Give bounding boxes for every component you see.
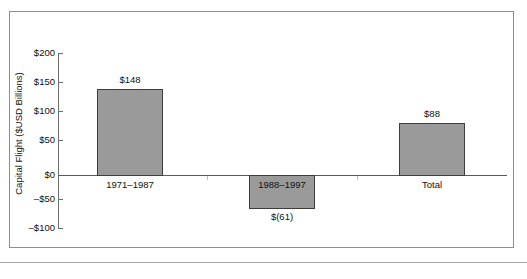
bar-category-label-total: Total	[399, 179, 465, 190]
bar-category-label-1988-1997: 1988–1997	[245, 179, 319, 190]
y-tick-label-50: $50	[0, 135, 55, 145]
y-tick-label-0: $0	[0, 170, 55, 180]
y-tick-mark-neg50	[58, 199, 63, 200]
y-tick-mark-50	[58, 140, 63, 141]
y-tick-mark-200	[58, 53, 63, 54]
y-tick-label-neg50: –$50	[0, 194, 55, 204]
y-tick-label-200: $200	[0, 48, 55, 58]
bar-chart-figure: Capital Flight ($USD Billions) $200 $150…	[0, 0, 527, 279]
x-tick-mark-2	[357, 176, 358, 180]
y-tick-label-neg100: –$100	[0, 223, 55, 233]
bar-value-label-1971-1987: $148	[97, 74, 163, 85]
bar-category-label-1971-1987: 1971–1987	[82, 179, 178, 190]
bar-value-label-total: $88	[399, 108, 465, 119]
y-tick-label-150: $150	[0, 77, 55, 87]
y-tick-mark-150	[58, 82, 63, 83]
bottom-divider-rule	[0, 262, 527, 263]
y-tick-mark-neg100	[58, 228, 63, 229]
y-tick-label-100: $100	[0, 106, 55, 116]
bar-1971-1987[interactable]	[97, 89, 163, 176]
bar-value-label-1988-1997: $(61)	[249, 211, 315, 222]
bar-total[interactable]	[399, 123, 465, 176]
x-tick-mark-1	[207, 176, 208, 180]
y-tick-mark-100	[58, 111, 63, 112]
